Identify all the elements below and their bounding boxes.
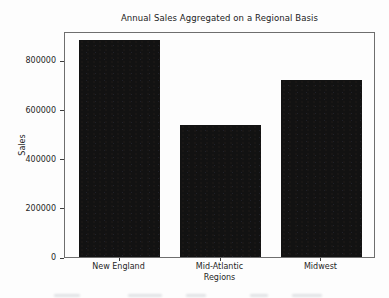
x-tick-label-midwest: Midwest: [270, 262, 370, 271]
y-tick-mark: [60, 110, 64, 111]
bar-midwest: [281, 80, 362, 257]
plot-area: [64, 32, 375, 258]
y-tick-label-0: 0: [4, 254, 56, 262]
y-tick-label-600000: 600000: [4, 107, 56, 115]
figure: Annual Sales Aggregated on a Regional Ba…: [0, 0, 389, 298]
y-axis-label: Sales: [18, 134, 27, 155]
y-tick-mark: [60, 258, 64, 259]
cropped-caption-remnant: [0, 293, 389, 298]
bar-mid-atlantic: [180, 125, 261, 257]
x-tick-mark: [220, 258, 221, 261]
y-tick-mark: [60, 208, 64, 209]
x-tick-mark: [320, 258, 321, 261]
y-tick-label-400000: 400000: [4, 156, 56, 164]
y-tick-mark: [60, 61, 64, 62]
y-tick-label-200000: 200000: [4, 205, 56, 213]
y-tick-label-800000: 800000: [4, 57, 56, 65]
x-tick-label-new-england: New England: [69, 262, 169, 271]
x-tick-mark: [119, 258, 120, 261]
chart-title: Annual Sales Aggregated on a Regional Ba…: [64, 13, 375, 23]
y-tick-mark: [60, 159, 64, 160]
bar-new-england: [79, 40, 160, 257]
x-tick-label-mid-atlantic: Mid-Atlantic: [170, 262, 270, 271]
x-axis-label: Regions: [64, 273, 375, 282]
